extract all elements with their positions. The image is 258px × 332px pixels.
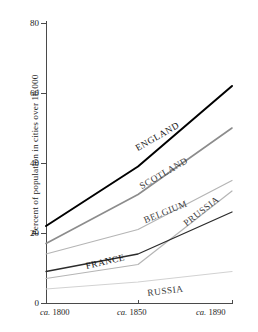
line-chart: Percent of population in cities over 10,… (0, 0, 258, 332)
plot-area (0, 0, 258, 332)
series-line-belgium (46, 181, 232, 255)
series-line-france (46, 212, 232, 272)
